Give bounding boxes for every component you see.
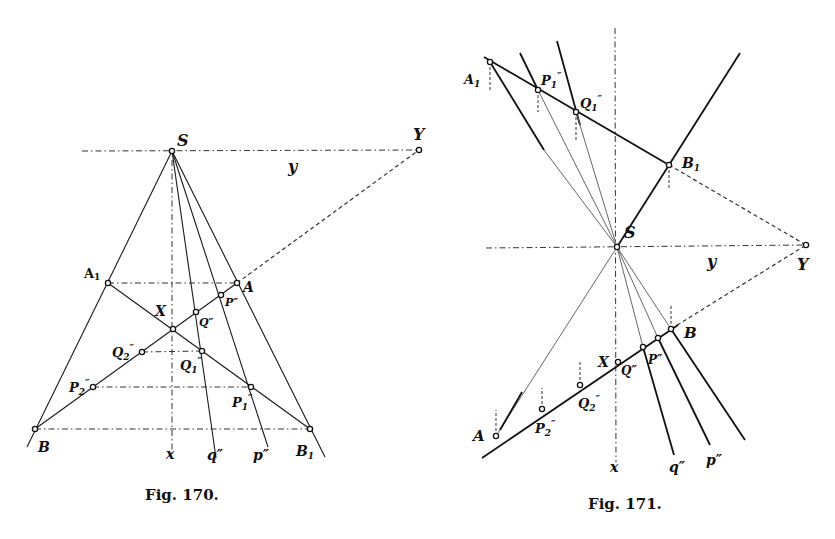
point-b [32, 426, 37, 431]
label-x-axis: x [609, 459, 619, 475]
point-q1 [199, 348, 204, 353]
ray-a1-lower [544, 150, 617, 247]
point-p2 [539, 406, 544, 411]
figure-canvas: S Y y A1 A X P″ Q″ Q2″ Q1″ P2″ P1″ B x q… [0, 0, 835, 539]
point-q [640, 344, 645, 349]
label-p: P″ [647, 353, 663, 367]
fig-170: S Y y A1 A X P″ Q″ Q2″ Q1″ P2″ P1″ B x q… [27, 125, 426, 504]
label-b1: B1 [295, 443, 314, 461]
label-y-axis: y [287, 157, 299, 176]
label-q1: Q1″ [580, 93, 603, 113]
label-x-point: X [597, 354, 610, 370]
label-a1: A1 [83, 266, 100, 282]
ray-b-low [617, 247, 671, 329]
label-y-axis: y [706, 252, 718, 271]
point-b1 [666, 162, 671, 167]
point-q2 [577, 382, 582, 387]
point-a1 [487, 59, 492, 64]
q2-q1-line [142, 351, 202, 352]
caption-fig-171: Fig. 171. [588, 495, 662, 513]
label-p-line: p″ [706, 452, 723, 468]
label-s: S [177, 131, 189, 150]
label-p: P″ [224, 296, 238, 309]
label-q-line: q″ [669, 459, 686, 475]
label-p1: P1″ [231, 392, 253, 412]
ray-q [172, 151, 216, 458]
label-y-point: Y [413, 125, 426, 144]
label-a1: A1 [462, 72, 480, 89]
ray-p [172, 151, 268, 447]
label-s: S [624, 223, 636, 242]
label-y-point: Y [797, 255, 810, 274]
point-p [655, 335, 660, 340]
label-x-point: X [154, 303, 167, 319]
label-q-line: q″ [207, 447, 224, 463]
point-b [668, 326, 673, 331]
fig-171: S Y y A1 P1″ Q1″ B1 B X Q″ P″ Q2″ P2″ A … [462, 28, 810, 513]
y-axis-line [486, 245, 806, 248]
point-a1 [105, 280, 110, 285]
ray-a1-upper [490, 62, 544, 150]
point-s [614, 244, 619, 249]
label-q2: Q2″ [578, 393, 601, 413]
label-a: A [471, 427, 485, 445]
dashed-b1-y [669, 165, 806, 245]
point-q2 [139, 349, 144, 354]
ray-s-b [27, 151, 172, 447]
label-q1: Q1″ [180, 355, 203, 375]
ray-s-b1 [172, 151, 325, 457]
point-p1 [248, 384, 253, 389]
point-p [218, 292, 223, 297]
label-p-line: p″ [253, 447, 270, 463]
ray-s-a-bold [500, 392, 522, 430]
point-x [615, 359, 620, 364]
dashed-line-to-y [237, 150, 419, 283]
ray-q-mid [576, 112, 617, 247]
point-a [493, 433, 498, 438]
label-q: Q″ [621, 364, 637, 378]
ray-p-top [520, 53, 538, 90]
label-p1: P1″ [540, 70, 562, 90]
point-s [169, 148, 174, 153]
label-b1: B1 [681, 155, 700, 173]
y-axis-line [82, 150, 419, 151]
point-x [170, 326, 175, 331]
label-p2: P2″ [534, 418, 556, 438]
caption-fig-170: Fig. 170. [145, 486, 219, 504]
label-q: Q″ [199, 316, 214, 329]
label-a: A [241, 279, 254, 295]
label-b: B [683, 324, 697, 342]
line-b-a [35, 283, 237, 429]
point-y [416, 147, 421, 152]
point-b1 [307, 426, 312, 431]
line-s-b1 [617, 53, 740, 247]
dashed-b-y [671, 245, 806, 329]
point-a [234, 280, 239, 285]
label-b: B [37, 439, 50, 455]
label-p2: P2″ [68, 377, 90, 397]
point-y [803, 242, 808, 247]
point-p2 [90, 384, 95, 389]
point-p1 [535, 87, 540, 92]
ray-b-bottom [671, 329, 745, 440]
label-x-axis: x [165, 446, 175, 462]
line-a-b [482, 325, 678, 458]
point-q [193, 309, 198, 314]
point-q1 [573, 109, 578, 114]
